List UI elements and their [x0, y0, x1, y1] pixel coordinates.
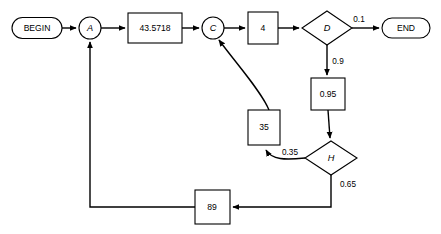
node-begin-label: BEGIN	[24, 23, 51, 33]
node-h[interactable]: H	[305, 141, 357, 175]
edge-label-h-35: 0.35	[282, 148, 298, 157]
node-d[interactable]: D	[302, 11, 352, 45]
flowchart-canvas: BEGIN A 43.5718 C 4 D	[0, 0, 441, 234]
node-a-label: A	[86, 23, 93, 33]
node-0.95[interactable]: 0.95	[311, 78, 345, 110]
node-h-label: H	[328, 153, 335, 163]
edge-35-to-c	[219, 40, 269, 110]
node-c-label: C	[210, 23, 217, 33]
node-89-label: 89	[207, 202, 217, 212]
edge-h-to-89	[233, 175, 331, 207]
node-4[interactable]: 4	[248, 12, 278, 44]
node-end-label: END	[397, 23, 415, 33]
edge-89-to-a	[90, 42, 195, 207]
node-d-label: D	[324, 23, 331, 33]
edge-label-h-89: 0.65	[340, 180, 356, 189]
node-4-label: 4	[261, 23, 266, 33]
edge-layer	[62, 28, 379, 207]
node-begin[interactable]: BEGIN	[12, 18, 62, 39]
node-43.5718-label: 43.5718	[139, 23, 170, 33]
node-89[interactable]: 89	[195, 190, 230, 224]
edge-095-to-h	[328, 110, 330, 138]
flowchart-svg: BEGIN A 43.5718 C 4 D	[0, 0, 441, 234]
node-35-label: 35	[259, 122, 269, 132]
node-a[interactable]: A	[79, 17, 101, 39]
edge-label-d-end: 0.1	[353, 15, 365, 24]
edge-label-d-095: 0.9	[332, 57, 344, 66]
node-end[interactable]: END	[382, 18, 430, 38]
node-0.95-label: 0.95	[320, 89, 337, 99]
node-c[interactable]: C	[202, 17, 224, 39]
node-43.5718[interactable]: 43.5718	[128, 13, 182, 43]
node-35[interactable]: 35	[248, 110, 280, 145]
